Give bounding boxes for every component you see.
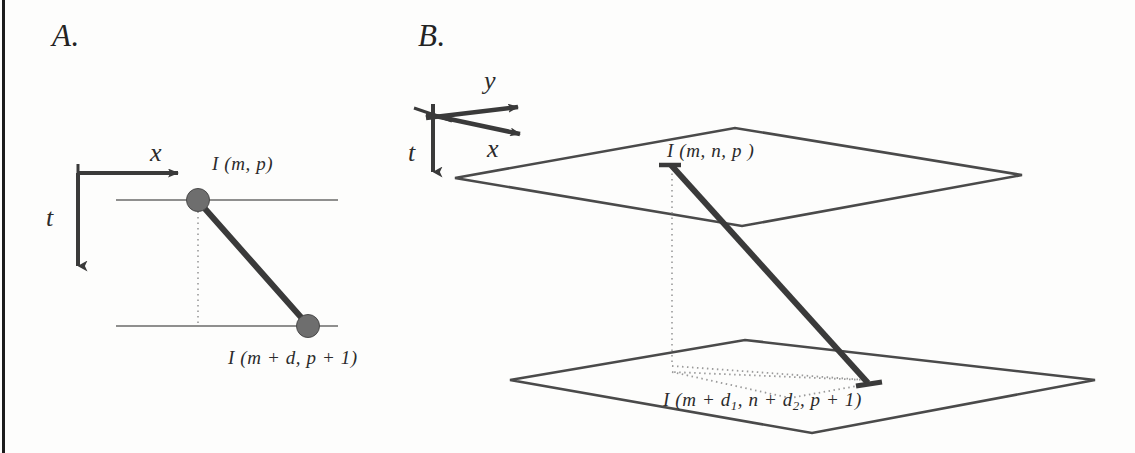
panel-a-t-axis-label: t [46, 205, 53, 231]
panel-a-displacement-vector [199, 202, 307, 324]
panel-b-target-label-sub2: 2 [793, 398, 800, 413]
panel-b-target-label-mid: , n + d [738, 389, 793, 410]
panel-b-target-label: I (m + d1, n + d2, p + 1) [663, 390, 862, 413]
figure-root: A. x t I (m, p) I (m + d, p + 1) B. y x … [0, 0, 1135, 453]
panel-b-t-axis-label: t [408, 140, 415, 166]
panel-a-letter: A. [52, 20, 80, 51]
panel-a-target-label: I (m + d, p + 1) [228, 348, 358, 367]
panel-b-letter: B. [418, 20, 446, 51]
panel-a-source-node [187, 189, 210, 212]
panel-a-source-label: I (m, p) [212, 154, 273, 173]
panel-b-graphics [414, 104, 1095, 433]
panel-b-lower-plane [510, 340, 1095, 433]
panel-b-source-label: I (m, n, p ) [667, 141, 754, 160]
panel-b-projection-path [672, 366, 866, 380]
panel-a-graphics [78, 164, 338, 338]
panel-b-y-axis-label: y [484, 68, 496, 94]
panel-b-target-label-prefix: I (m + d [663, 389, 731, 410]
panel-b-target-marker [856, 382, 882, 386]
panel-b-x-axis [426, 114, 520, 134]
panel-b-displacement-vector [671, 165, 868, 383]
panel-a-target-node [297, 315, 320, 338]
panel-b-target-label-suffix: , p + 1) [800, 389, 862, 410]
panel-b-x-axis-label: x [487, 136, 499, 162]
panel-a-x-axis-label: x [150, 140, 162, 166]
panel-b-target-label-sub1: 1 [731, 398, 738, 413]
figure-vector-graphics [0, 0, 1135, 453]
panel-a-x-axis [78, 164, 178, 182]
